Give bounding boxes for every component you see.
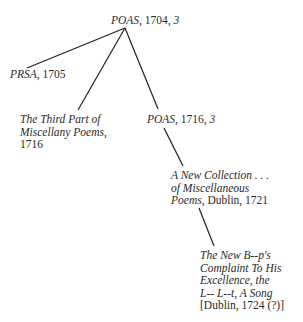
- edge-root-poas1716: [125, 28, 158, 109]
- node-new-collection: A New Collection . . . of Miscellaneous …: [171, 169, 269, 207]
- node-title-line: A New Collection . . .: [171, 169, 269, 182]
- node-title: PRSA: [10, 68, 37, 80]
- node-date: , 1704,: [139, 14, 174, 26]
- node-root: POAS, 1704, 3: [111, 14, 179, 27]
- node-imprint: [Dublin, 1724 (?)]: [200, 299, 284, 312]
- node-title-line: The Third Part of: [20, 113, 107, 126]
- node-title-line: The New B--p's: [200, 249, 284, 262]
- node-date: , Dublin, 1721: [202, 194, 268, 206]
- node-title-line: L-- L--t, A Song: [200, 287, 284, 300]
- node-date: , 1716,: [175, 113, 210, 125]
- edge-root-prsa: [27, 28, 125, 68]
- node-volume: 3: [210, 113, 216, 125]
- node-date: 1716: [20, 138, 107, 151]
- node-title-line: Complaint To His: [200, 262, 284, 275]
- node-title-line: of Miscellaneous: [171, 182, 269, 195]
- edge-poas1716-new-collection: [164, 128, 183, 166]
- node-title: POAS: [147, 113, 175, 125]
- edge-root-third-part: [78, 28, 125, 110]
- node-volume: 3: [174, 14, 180, 26]
- edge-new-collection-new-bp: [199, 208, 214, 246]
- node-title-line: Poems: [171, 194, 202, 206]
- node-title: POAS: [111, 14, 139, 26]
- node-prsa: PRSA, 1705: [10, 68, 66, 81]
- node-third-part: The Third Part of Miscellany Poems, 1716: [20, 113, 107, 151]
- node-new-bp: The New B--p's Complaint To His Excellen…: [200, 249, 284, 312]
- node-title-line: Miscellany Poems,: [20, 126, 107, 139]
- node-date: , 1705: [37, 68, 66, 80]
- node-title-line: Excellence, the: [200, 274, 284, 287]
- node-poas1716: POAS, 1716, 3: [147, 113, 215, 126]
